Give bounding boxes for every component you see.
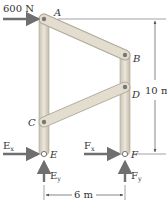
joint-label-B: B xyxy=(132,53,140,64)
pin-D xyxy=(123,85,127,89)
joint-label-C: C xyxy=(28,117,36,128)
joint-label-E: E xyxy=(49,149,58,160)
pin-B xyxy=(123,53,127,57)
joint-label-D: D xyxy=(131,89,140,100)
member-AE xyxy=(39,14,49,156)
pin-E xyxy=(41,151,46,156)
reaction-label-Fx: Fx xyxy=(84,140,95,153)
member-BF xyxy=(120,50,130,156)
joint-label-A: A xyxy=(53,7,61,18)
pin-F xyxy=(122,151,127,156)
pin-C xyxy=(42,120,46,124)
reaction-label-Ey: Ey xyxy=(50,170,61,183)
pin-A xyxy=(42,17,46,21)
dimension-height-label: 10 m xyxy=(145,85,167,96)
load-label: 600 N xyxy=(3,3,34,14)
reaction-label-Ex: Ex xyxy=(3,140,14,153)
dimension-width-label: 6 m xyxy=(74,189,94,200)
joint-label-F: F xyxy=(130,149,139,160)
member-CD xyxy=(44,87,125,122)
member-AB xyxy=(44,19,125,55)
frame-diagram: 600 N A B C D E F Ex Ey Fx Fy 10 m 6 m xyxy=(0,0,167,213)
reaction-label-Fy: Fy xyxy=(131,170,142,183)
